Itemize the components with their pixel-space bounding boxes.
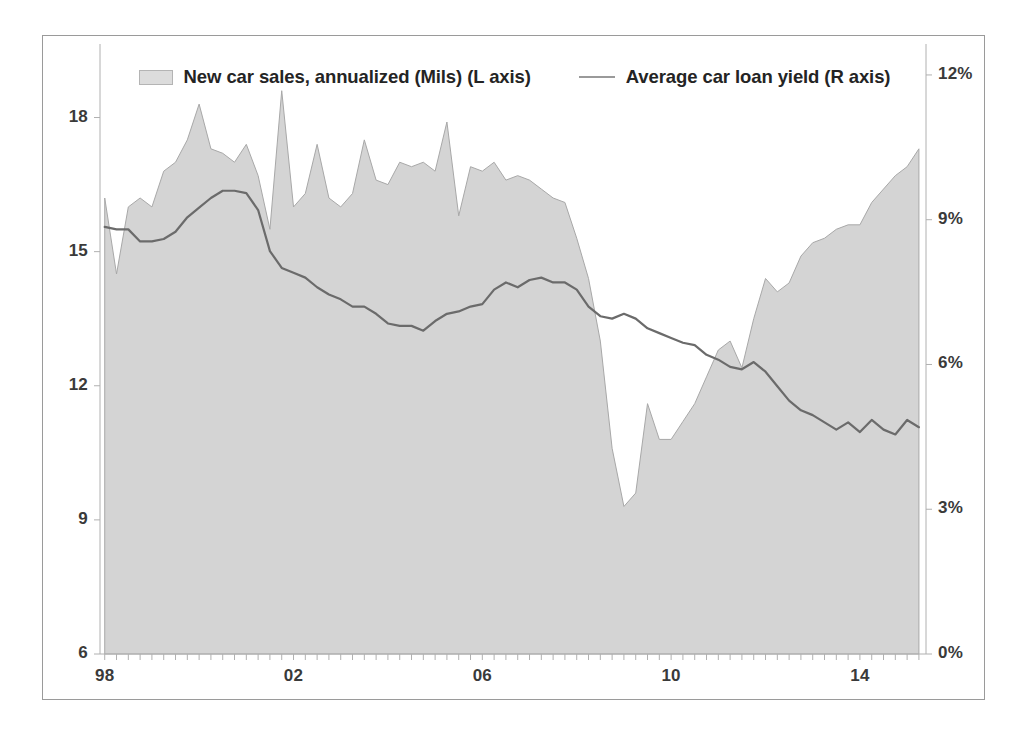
chart-figure: New car sales, annualized (Mils) (L axis… xyxy=(42,35,985,700)
series-area-new-car-sales xyxy=(105,91,919,654)
left-axis-tick-label: 18 xyxy=(44,107,88,127)
x-axis-tick-label: 02 xyxy=(269,666,319,686)
chart-plot-area xyxy=(43,36,984,699)
right-axis-tick-label: 6% xyxy=(938,353,998,373)
left-axis-tick-label: 12 xyxy=(44,375,88,395)
x-axis-tick-label: 98 xyxy=(80,666,130,686)
left-axis-tick-label: 15 xyxy=(44,241,88,261)
right-axis-tick-label: 3% xyxy=(938,498,998,518)
right-axis-tick-label: 0% xyxy=(938,643,998,663)
x-axis-tick-label: 14 xyxy=(835,666,885,686)
right-axis-tick-label: 12% xyxy=(938,64,998,84)
left-axis-tick-label: 6 xyxy=(44,643,88,663)
x-axis-tick-label: 06 xyxy=(457,666,507,686)
left-axis-tick-label: 9 xyxy=(44,509,88,529)
x-axis-tick-label: 10 xyxy=(646,666,696,686)
right-axis-tick-label: 9% xyxy=(938,209,998,229)
